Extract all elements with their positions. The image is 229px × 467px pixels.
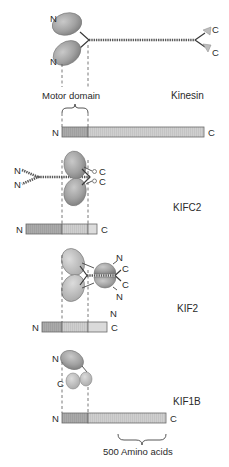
kinesin-n-label-lower: N (50, 56, 57, 67)
kif2-bar-n-terminal (42, 322, 62, 332)
kinesin-structure: N N C C (48, 9, 219, 70)
kinesin-domain-bar: N C (52, 127, 215, 138)
kinesin-bar-tail (88, 127, 204, 137)
motor-domain-brace (62, 104, 88, 113)
kif2-n-label-extra: N (110, 308, 117, 319)
kifc2-domain-bar: N C (16, 224, 108, 235)
kinesin-n-label-upper: N (50, 13, 57, 24)
kif2-structure: N C C N N (57, 245, 129, 319)
kif2-n-terminal-domain-lower (94, 277, 116, 288)
kif1b-name-label: KIF1B (173, 396, 201, 407)
kifc2-group: N N C C KIFC2 N C (14, 149, 202, 235)
kif1b-bar-motor (62, 413, 88, 423)
kif2-bar-n-label: N (32, 322, 39, 333)
kinesin-name-label: Kinesin (171, 90, 204, 101)
kifc2-c-linker-lower (86, 181, 92, 184)
kif1b-n-label: N (52, 353, 59, 364)
kif2-c-label-lower: C (122, 279, 129, 290)
kifc2-c-terminus-upper (93, 170, 97, 174)
kif1b-bar-tail (88, 413, 166, 423)
kifc2-structure: N N C C (14, 149, 106, 208)
kinesin-bar-n-label: N (52, 127, 59, 138)
kinesin-light-chain-lower (203, 44, 211, 52)
kif2-n-label-upper: N (116, 252, 123, 263)
kifc2-bar-n-label: N (16, 224, 23, 235)
kif1b-bar-c-label: C (170, 413, 177, 424)
kinesin-group: N N C C Motor domain Kinesin N C (42, 9, 219, 138)
kif1b-neck-linker (82, 366, 87, 372)
kif2-bar-motor (62, 322, 88, 332)
kif1b-domain-c-2 (80, 372, 92, 386)
kifc2-bar-c-label: C (101, 224, 108, 235)
kinesin-c-label-lower: C (212, 47, 219, 58)
kif1b-domain-bar: N C (52, 413, 177, 424)
kif2-domain-bar: N C (32, 322, 118, 333)
kifc2-motor-head-lower (61, 176, 89, 209)
kif2-bar-c-label: C (111, 322, 118, 333)
kif1b-bar-n-label: N (52, 413, 59, 424)
kifc2-bar-motor (62, 224, 88, 234)
kifc2-c-terminus-lower (93, 179, 97, 183)
kifc2-bar-stalk (26, 224, 62, 234)
kif2-bar-tail (88, 322, 107, 332)
kif1b-structure: N C (52, 347, 92, 389)
kifc2-n-fork (22, 170, 38, 184)
kif1b-c-label: C (57, 378, 64, 389)
kifc2-c-label-lower: C (99, 176, 106, 187)
kifc2-bar-tail (88, 224, 97, 234)
kif2-n-label-lower: N (116, 291, 123, 302)
kinesin-family-diagram: N N C C Motor domain Kinesin N C (0, 0, 229, 467)
kif2-group: N C C N N KIF2 N C (32, 245, 199, 333)
kinesin-bar-c-label: C (208, 127, 215, 138)
kif1b-group: N C KIF1B N C 500 Amino acids (52, 347, 201, 457)
kif2-name-label: KIF2 (177, 303, 199, 314)
motor-domain-label: Motor domain (42, 90, 100, 101)
kif1b-domain-c-1 (66, 373, 80, 389)
kinesin-bar-motor (62, 127, 88, 137)
kifc2-n-label-upper: N (14, 165, 21, 176)
scale-brace (118, 434, 166, 445)
kif2-n-terminal-domain-upper (94, 263, 116, 274)
kif2-c-label-upper: C (122, 263, 129, 274)
kinesin-c-label-upper: C (212, 24, 219, 35)
kifc2-name-label: KIFC2 (173, 202, 202, 213)
kifc2-n-label-lower: N (14, 179, 21, 190)
scale-label: 500 Amino acids (103, 446, 173, 457)
